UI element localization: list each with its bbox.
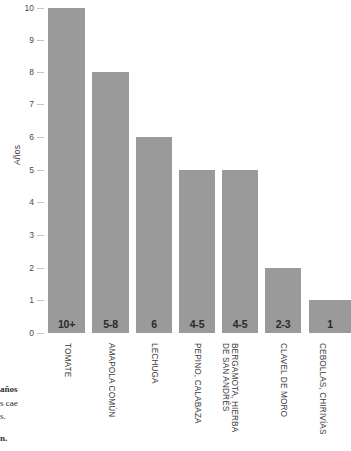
bar-lechuga: 6: [136, 137, 172, 333]
y-tick-mark-icon: [37, 170, 44, 171]
y-tick-label: 7: [29, 99, 34, 108]
y-tick-mark-icon: [37, 235, 44, 236]
margin-text-line-4: n.: [0, 432, 34, 446]
x-category-label: CLAVEL DE MORO: [279, 343, 288, 417]
x-category-tomate: TOMATE: [57, 343, 71, 447]
y-tick-label: 9: [29, 35, 34, 44]
bar-value-label: 2-3: [265, 318, 301, 330]
y-tick-label: 3: [29, 230, 34, 239]
x-category-label-line2: DE SAN ANDRÉS: [221, 343, 230, 447]
x-category-clavel-de-moro: CLAVEL DE MORO: [273, 343, 287, 447]
bar-pepino-calabaza: 4-5: [179, 170, 215, 333]
bar-bergamota-hierba-de-san-andres: 4-5: [222, 170, 258, 333]
bar-tomate: 10+: [48, 8, 85, 333]
y-tick-label: 10: [25, 3, 34, 12]
x-category-lechuga: LECHUGA: [144, 343, 158, 447]
y-tick-label: 5: [29, 165, 34, 174]
y-tick-label: 8: [29, 67, 34, 76]
bar-clavel-de-moro: 2-3: [265, 268, 301, 333]
x-category-label: LECHUGA: [150, 343, 159, 384]
bar-amapola-comun: 5-8: [92, 72, 129, 333]
y-tick-mark-icon: [37, 333, 44, 334]
y-tick-mark-icon: [37, 300, 44, 301]
x-category-label: PEPINO, CALABAZA: [193, 343, 202, 424]
x-category-label: TOMATE: [63, 343, 72, 377]
bar-value-label: 4-5: [222, 318, 258, 330]
bar-value-label: 6: [136, 318, 172, 330]
y-tick-mark-icon: [37, 202, 44, 203]
bar-value-label: 10+: [48, 318, 85, 330]
y-tick-label: 2: [29, 263, 34, 272]
bar-value-label: 5-8: [92, 318, 129, 330]
bar-cebollas-chirivias: 1: [309, 300, 351, 333]
y-tick-mark-icon: [37, 137, 44, 138]
x-category-bergamota-hierba-de-san-andres: BERGAMOTA, HIERBA DE SAN ANDRÉS: [218, 343, 238, 447]
margin-text-line-2: s cae: [0, 397, 34, 411]
y-tick-label: 4: [29, 197, 34, 206]
x-category-label: AMAPOLA COMÚN: [107, 343, 116, 417]
margin-text-gap: [0, 424, 34, 432]
x-category-label-line1: BERGAMOTA, HIERBA: [230, 343, 239, 432]
bar-value-label: 4-5: [179, 318, 215, 330]
margin-body-text: años s cae s. n.: [0, 383, 34, 445]
margin-text-line-3: s.: [0, 410, 34, 424]
bar-value-label: 1: [309, 318, 351, 330]
y-tick-mark-icon: [37, 40, 44, 41]
y-axis-title: Años: [12, 125, 22, 185]
y-tick-label: 6: [29, 132, 34, 141]
y-tick-mark-icon: [37, 8, 44, 9]
x-category-pepino-calabaza: PEPINO, CALABAZA: [187, 343, 201, 447]
x-category-cebollas-chirivias: CEBOLLAS, CHIRIVÍAS: [312, 343, 326, 447]
y-tick-label: 1: [29, 295, 34, 304]
y-tick-label: 0: [29, 328, 34, 337]
y-tick-mark-icon: [37, 72, 44, 73]
y-tick-mark-icon: [37, 268, 44, 269]
y-tick-mark-icon: [37, 104, 44, 105]
x-category-amapola-comun: AMAPOLA COMÚN: [101, 343, 115, 447]
x-category-label: CEBOLLAS, CHIRIVÍAS: [318, 343, 327, 435]
margin-text-line-1: años: [0, 383, 34, 397]
